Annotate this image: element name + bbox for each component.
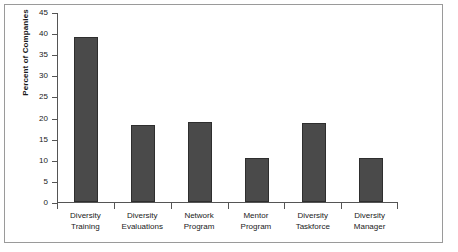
bar[interactable]: [359, 158, 383, 202]
y-tick-label: 15: [39, 135, 48, 144]
bar[interactable]: [131, 125, 155, 202]
y-tick-label: 45: [39, 8, 48, 17]
x-axis-label-line2: Program: [228, 222, 285, 233]
bar-slot: [172, 13, 229, 202]
x-axis-label-line1: Diversity: [114, 211, 171, 222]
x-axis-label-line2: Evaluations: [114, 222, 171, 233]
x-axis-label-line1: Diversity: [284, 211, 341, 222]
x-axis-label: DiversityTaskforce: [284, 211, 341, 232]
x-axis-ticks: [57, 203, 398, 210]
x-tick-mark: [114, 203, 115, 209]
x-axis-label: NetworkProgram: [171, 211, 228, 232]
x-axis-label-line2: Program: [171, 222, 228, 233]
x-tick-mark: [171, 203, 172, 209]
bars-layer: [58, 13, 398, 202]
x-axis-label-line2: Manager: [341, 222, 398, 233]
y-tick-label: 40: [39, 29, 48, 38]
x-axis-label-line1: Diversity: [341, 211, 398, 222]
y-tick-label: 0: [44, 198, 48, 207]
bar[interactable]: [302, 123, 326, 202]
x-tick-mark: [284, 203, 285, 209]
x-axis-label-line1: Network: [171, 211, 228, 222]
bar-slot: [229, 13, 286, 202]
x-tick-mark: [57, 203, 58, 209]
y-tick-label: 35: [39, 50, 48, 59]
x-axis-label: DiversityManager: [341, 211, 398, 232]
x-tick-mark: [341, 203, 342, 209]
x-axis-label-line2: Training: [57, 222, 114, 233]
x-axis-label-line1: Mentor: [228, 211, 285, 222]
y-tick-label: 5: [44, 177, 48, 186]
y-tick-label: 10: [39, 156, 48, 165]
y-tick-label: 30: [39, 71, 48, 80]
x-axis-label-line1: Diversity: [57, 211, 114, 222]
bar-chart-figure: Percent of Companies 051015202530354045 …: [0, 0, 458, 252]
x-axis-labels: DiversityTrainingDiversityEvaluationsNet…: [57, 211, 398, 237]
bar-slot: [58, 13, 115, 202]
x-axis-label: MentorProgram: [228, 211, 285, 232]
bar-slot: [285, 13, 342, 202]
bar[interactable]: [74, 37, 98, 202]
plot-area: [57, 13, 398, 203]
y-tick-label: 20: [39, 114, 48, 123]
x-tick-mark: [397, 203, 398, 209]
bar-slot: [342, 13, 399, 202]
y-axis-ticks: 051015202530354045: [0, 13, 57, 203]
x-axis-label-line2: Taskforce: [284, 222, 341, 233]
y-tick-label: 25: [39, 92, 48, 101]
x-axis-label: DiversityEvaluations: [114, 211, 171, 232]
x-tick-mark: [228, 203, 229, 209]
bar-slot: [115, 13, 172, 202]
x-axis-label: DiversityTraining: [57, 211, 114, 232]
bar[interactable]: [188, 122, 212, 202]
bar[interactable]: [245, 158, 269, 202]
